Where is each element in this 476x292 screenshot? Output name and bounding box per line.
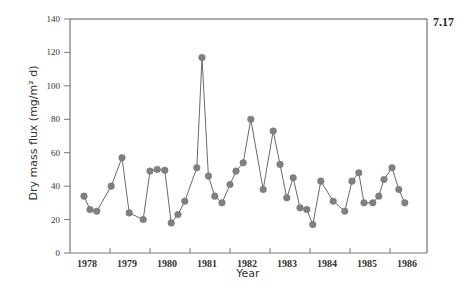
- y-tick-label: 140: [47, 14, 61, 24]
- data-point: [389, 164, 396, 171]
- x-tick-label: 1984: [317, 258, 337, 269]
- data-point: [260, 186, 267, 193]
- data-point: [175, 211, 182, 218]
- data-point: [219, 200, 226, 207]
- data-point: [147, 168, 154, 175]
- data-point: [162, 167, 169, 174]
- x-axis-title: Year: [235, 267, 260, 280]
- x-tick-label: 1985: [357, 258, 377, 269]
- y-tick-label: 80: [51, 114, 61, 124]
- y-tick-label: 100: [47, 81, 61, 91]
- y-axis-title: Dry mass flux (mg/m² d): [27, 66, 40, 201]
- data-point: [182, 198, 189, 205]
- data-point: [277, 161, 284, 168]
- data-series: [81, 54, 408, 228]
- data-point: [310, 221, 317, 228]
- x-axis-ticks: 197819791980198119821983198419851986: [77, 248, 417, 269]
- series-line: [84, 57, 405, 224]
- line-chart: 020406080100120140 197819791980198119821…: [0, 0, 476, 292]
- y-tick-label: 40: [51, 181, 61, 191]
- data-point: [108, 183, 115, 190]
- data-point: [240, 159, 247, 166]
- data-point: [402, 200, 409, 207]
- data-point: [318, 178, 325, 185]
- data-point: [205, 173, 212, 180]
- data-point: [194, 164, 201, 171]
- data-point: [199, 54, 206, 61]
- data-point: [330, 198, 337, 205]
- data-point: [361, 200, 368, 207]
- data-point: [94, 208, 101, 215]
- x-tick-label: 1986: [397, 258, 417, 269]
- data-point: [381, 176, 388, 183]
- x-tick-label: 1983: [277, 258, 297, 269]
- x-tick-label: 1978: [77, 258, 97, 269]
- x-tick-label: 1979: [117, 258, 137, 269]
- y-tick-label: 60: [51, 148, 61, 158]
- data-point: [376, 193, 383, 200]
- data-point: [396, 186, 403, 193]
- data-point: [227, 181, 234, 188]
- data-point: [154, 166, 161, 173]
- x-tick-label: 1981: [197, 258, 217, 269]
- data-point: [342, 208, 349, 215]
- data-point: [212, 193, 219, 200]
- data-point: [356, 169, 363, 176]
- data-point: [87, 206, 94, 213]
- data-point: [81, 193, 88, 200]
- data-point: [284, 195, 291, 202]
- data-point: [168, 220, 175, 227]
- data-point: [370, 200, 377, 207]
- y-tick-label: 120: [47, 47, 61, 57]
- figure-number: 7.17: [433, 15, 454, 29]
- data-point: [126, 210, 133, 217]
- plot-frame: [70, 19, 427, 253]
- data-point: [140, 216, 147, 223]
- x-tick-label: 1980: [157, 258, 177, 269]
- data-point: [349, 178, 356, 185]
- data-point: [233, 168, 240, 175]
- data-point: [119, 154, 126, 161]
- data-point: [270, 128, 277, 135]
- data-point: [297, 205, 304, 212]
- y-tick-label: 20: [51, 215, 61, 225]
- data-point: [248, 116, 255, 123]
- y-tick-label: 0: [56, 248, 61, 258]
- y-axis-ticks: 020406080100120140: [47, 14, 71, 258]
- data-point: [304, 206, 311, 213]
- data-point: [290, 174, 297, 181]
